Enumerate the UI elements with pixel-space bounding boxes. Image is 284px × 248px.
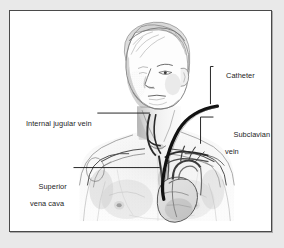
label-catheter: Catheter (226, 72, 255, 81)
label-superior-vena-cava: Superior vena cava (30, 174, 67, 226)
catheter-leader (210, 66, 213, 104)
label-subclavian-vein-line1: Subclavian (233, 130, 270, 139)
label-superior-vena-cava-line1: Superior (38, 182, 66, 191)
label-internal-jugular-vein: Internal jugular vein (26, 120, 92, 129)
figure-frame: Catheter Subclavian vein Internal jugula… (9, 10, 272, 232)
label-subclavian-vein-line2: vein (225, 148, 270, 157)
label-subclavian-vein: Subclavian vein (225, 122, 270, 174)
label-superior-vena-cava-line2: vena cava (30, 200, 67, 209)
body-figure (79, 22, 234, 222)
